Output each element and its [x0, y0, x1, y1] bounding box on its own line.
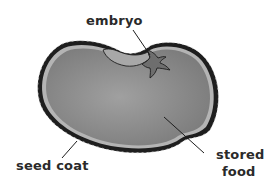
embryo-label: embryo	[86, 13, 143, 28]
stored-food-label-line2: food	[222, 164, 256, 179]
seed-coat-leader-line	[62, 141, 77, 158]
seed-coat-label: seed coat	[16, 158, 89, 173]
stored-food-label-line1: stored	[216, 147, 265, 162]
